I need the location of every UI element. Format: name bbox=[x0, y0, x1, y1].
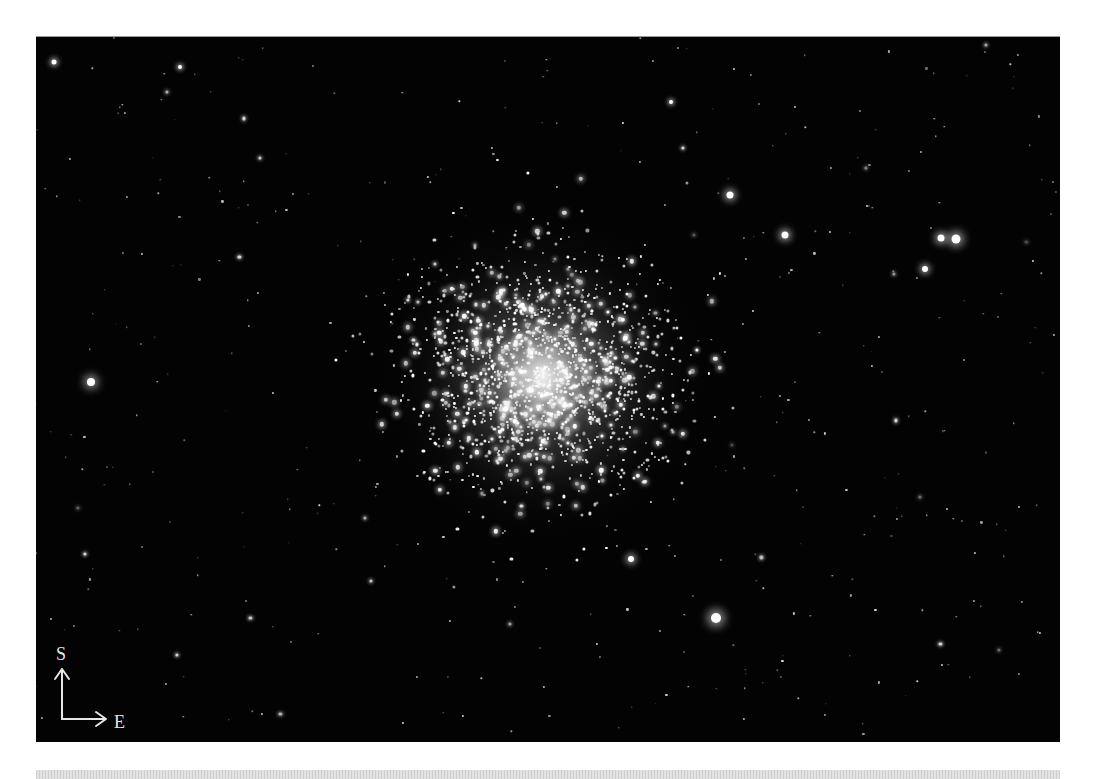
star bbox=[555, 186, 557, 188]
star bbox=[595, 361, 597, 363]
star bbox=[174, 119, 175, 120]
star bbox=[662, 369, 664, 371]
star bbox=[601, 258, 604, 261]
star bbox=[763, 588, 764, 589]
star bbox=[590, 397, 593, 400]
star bbox=[613, 335, 615, 337]
star bbox=[519, 246, 521, 248]
star bbox=[460, 284, 464, 288]
star bbox=[609, 414, 611, 416]
star bbox=[546, 70, 547, 71]
star bbox=[56, 196, 57, 197]
star bbox=[529, 290, 531, 292]
star bbox=[532, 218, 534, 220]
star bbox=[550, 422, 554, 426]
star bbox=[597, 341, 600, 344]
star bbox=[401, 381, 403, 383]
star bbox=[651, 416, 654, 419]
star bbox=[466, 345, 468, 347]
star bbox=[172, 265, 173, 266]
star bbox=[493, 329, 495, 331]
star bbox=[136, 415, 137, 416]
star bbox=[515, 384, 517, 386]
star bbox=[476, 262, 478, 264]
star bbox=[547, 222, 549, 224]
star bbox=[829, 231, 831, 233]
star bbox=[917, 680, 918, 681]
star bbox=[463, 300, 465, 302]
star bbox=[543, 366, 546, 369]
star bbox=[647, 313, 649, 315]
star bbox=[590, 445, 593, 448]
star bbox=[530, 431, 533, 434]
star bbox=[482, 413, 485, 416]
star bbox=[557, 414, 559, 416]
star bbox=[609, 445, 612, 448]
star bbox=[567, 278, 569, 280]
star bbox=[506, 353, 508, 355]
star bbox=[520, 504, 523, 507]
star bbox=[637, 338, 639, 340]
star bbox=[492, 153, 494, 155]
east-label: E bbox=[114, 713, 125, 731]
star bbox=[89, 349, 90, 350]
star bbox=[794, 381, 796, 383]
star bbox=[689, 353, 691, 355]
star bbox=[632, 476, 635, 479]
star bbox=[508, 342, 510, 344]
south-label: S bbox=[56, 645, 66, 663]
star bbox=[732, 407, 735, 410]
star bbox=[517, 479, 519, 481]
star bbox=[626, 257, 628, 259]
star bbox=[498, 275, 501, 278]
star bbox=[573, 258, 575, 260]
star bbox=[496, 159, 498, 161]
star bbox=[466, 310, 469, 313]
star bbox=[468, 409, 470, 411]
star bbox=[395, 411, 399, 415]
star bbox=[522, 384, 525, 387]
star bbox=[483, 439, 486, 442]
star bbox=[810, 615, 811, 616]
star bbox=[89, 578, 91, 580]
star bbox=[37, 129, 38, 130]
star bbox=[969, 677, 970, 678]
star bbox=[562, 211, 566, 215]
star bbox=[257, 292, 259, 294]
star bbox=[624, 448, 626, 450]
star bbox=[412, 307, 414, 309]
star bbox=[523, 318, 526, 321]
star bbox=[796, 489, 797, 490]
star bbox=[963, 300, 964, 301]
star bbox=[238, 255, 241, 258]
star bbox=[454, 294, 456, 296]
star bbox=[612, 465, 614, 467]
star bbox=[392, 259, 393, 260]
star bbox=[565, 330, 569, 334]
star bbox=[398, 279, 399, 280]
star bbox=[583, 405, 586, 408]
star bbox=[756, 580, 757, 581]
star bbox=[570, 272, 574, 276]
star bbox=[469, 455, 472, 458]
star bbox=[503, 324, 505, 326]
star bbox=[464, 389, 467, 392]
star bbox=[864, 534, 865, 535]
star bbox=[499, 311, 501, 313]
star bbox=[546, 391, 550, 395]
star bbox=[358, 332, 361, 335]
star bbox=[496, 395, 499, 398]
star bbox=[619, 476, 622, 479]
star bbox=[184, 440, 185, 441]
star bbox=[413, 318, 415, 320]
star bbox=[1032, 260, 1034, 262]
star bbox=[622, 308, 624, 310]
star bbox=[329, 322, 331, 324]
star bbox=[564, 460, 566, 462]
star bbox=[505, 275, 508, 278]
star bbox=[463, 425, 466, 428]
star bbox=[477, 452, 479, 454]
star bbox=[753, 236, 754, 237]
star bbox=[568, 236, 570, 238]
star bbox=[456, 266, 458, 268]
